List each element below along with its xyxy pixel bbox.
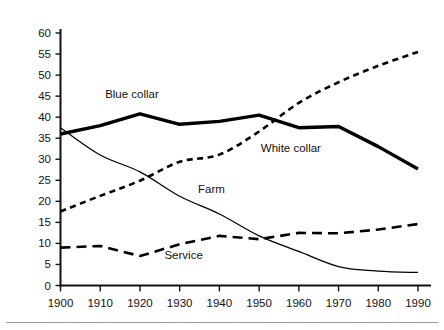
- series-annotation-farm: Farm: [198, 183, 225, 195]
- x-tick-label: 1940: [207, 297, 233, 309]
- x-tick-label: 1900: [48, 297, 74, 309]
- series-line-white-collar: [61, 52, 419, 211]
- series-annotation-white-collar: White collar: [261, 142, 321, 154]
- y-tick-label: 60: [38, 27, 51, 39]
- y-tick-label: 30: [38, 153, 51, 165]
- x-tick-label: 1970: [326, 297, 352, 309]
- x-axis-tick-labels: 1900191019201930194019501960197019801990: [48, 297, 431, 309]
- x-axis: 1900191019201930194019501960197019801990: [48, 286, 431, 310]
- y-tick-label: 55: [38, 48, 51, 60]
- y-tick-label: 15: [38, 216, 51, 228]
- y-tick-label: 45: [38, 90, 51, 102]
- chart-series-group: [61, 52, 419, 273]
- y-tick-label: 40: [38, 111, 51, 123]
- series-annotation-blue-collar: Blue collar: [105, 88, 159, 100]
- y-axis: 051015202530354045505560: [38, 27, 60, 292]
- y-tick-label: 50: [38, 69, 51, 81]
- series-annotation-service: Service: [164, 249, 202, 261]
- footer-divider: [6, 322, 438, 323]
- x-tick-label: 1960: [286, 297, 312, 309]
- x-tick-label: 1930: [167, 297, 193, 309]
- y-tick-label: 35: [38, 132, 51, 144]
- x-tick-label: 1910: [87, 297, 113, 309]
- y-tick-label: 20: [38, 195, 51, 207]
- y-axis-tick-labels: 051015202530354045505560: [38, 27, 51, 292]
- x-tick-label: 1920: [127, 297, 153, 309]
- y-tick-label: 25: [38, 174, 51, 186]
- y-tick-label: 10: [38, 237, 51, 249]
- series-line-service: [61, 224, 419, 256]
- y-tick-label: 5: [45, 258, 51, 270]
- x-tick-label: 1950: [246, 297, 272, 309]
- y-tick-label: 0: [45, 280, 51, 292]
- x-tick-label: 1980: [365, 297, 391, 309]
- chart-plot-area: 051015202530354045505560 190019101920193…: [0, 0, 444, 330]
- line-chart: 051015202530354045505560 190019101920193…: [0, 0, 444, 330]
- series-line-blue-collar: [61, 114, 419, 169]
- x-tick-label: 1990: [405, 297, 431, 309]
